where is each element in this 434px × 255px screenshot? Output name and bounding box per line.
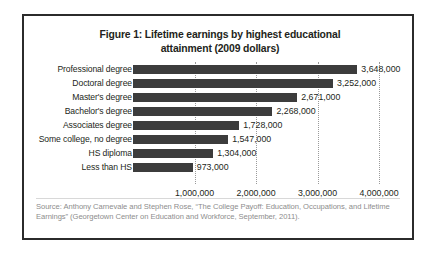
bar — [133, 121, 239, 130]
category-label: Bachelor's degree — [0, 104, 132, 118]
bar-track: 2,268,000 — [133, 107, 412, 116]
bar-row: Master's degree2,671,000 — [24, 90, 412, 104]
bar-track: 2,671,000 — [133, 93, 412, 102]
bar-track: 1,304,000 — [133, 149, 412, 158]
bar-rows: Professional degree3,648,000Doctoral deg… — [24, 62, 412, 174]
category-label: Master's degree — [0, 90, 132, 104]
bar-row: Some college, no degree1,547,000 — [24, 132, 412, 146]
bar-chart-plot-area: Professional degree3,648,000Doctoral deg… — [24, 62, 412, 192]
bar-track: 1,547,000 — [133, 135, 412, 144]
category-label: HS diploma — [0, 146, 132, 160]
figure-title-line-2: attainment (2009 dollars) — [161, 43, 280, 54]
figure-title-line-1: Figure 1: Lifetime earnings by highest e… — [100, 29, 341, 40]
bar-row: Doctoral degree3,252,000 — [24, 76, 412, 90]
category-label: Associates degree — [0, 118, 132, 132]
bar-value-label: 973,000 — [197, 160, 229, 174]
figure-title: Figure 1: Lifetime earnings by highest e… — [50, 28, 390, 56]
bar-row: Professional degree3,648,000 — [24, 62, 412, 76]
bar-track: 1,728,000 — [133, 121, 412, 130]
category-label: Professional degree — [0, 62, 132, 76]
source-note: Source: Anthony Carnevale and Stephen Ro… — [36, 202, 402, 222]
source-line-1: Source: Anthony Carnevale and Stephen Ro… — [36, 202, 361, 211]
bar-value-label: 1,547,000 — [232, 132, 271, 146]
bar-row: Less than HS973,000 — [24, 160, 412, 174]
x-axis: 1,000,0002,000,0003,000,0004,000,000 — [24, 186, 412, 202]
bar — [133, 65, 357, 74]
bar-track: 973,000 — [133, 163, 412, 172]
category-label: Some college, no degree — [0, 132, 132, 146]
bar-row: Bachelor's degree2,268,000 — [24, 104, 412, 118]
figure-frame: Figure 1: Lifetime earnings by highest e… — [22, 14, 414, 240]
bar-value-label: 1,304,000 — [217, 146, 256, 160]
bar — [133, 93, 297, 102]
bar-value-label: 3,252,000 — [337, 76, 376, 90]
category-label: Less than HS — [0, 160, 132, 174]
bar — [133, 79, 333, 88]
bar-value-label: 1,728,000 — [243, 118, 282, 132]
bar-row: Associates degree1,728,000 — [24, 118, 412, 132]
bar-track: 3,252,000 — [133, 79, 412, 88]
bar-value-label: 2,671,000 — [301, 90, 340, 104]
bar — [133, 135, 228, 144]
bar — [133, 163, 193, 172]
bar-value-label: 2,268,000 — [276, 104, 315, 118]
bar-value-label: 3,648,000 — [361, 62, 400, 76]
bar-row: HS diploma1,304,000 — [24, 146, 412, 160]
bar — [133, 107, 272, 116]
bar — [133, 149, 213, 158]
source-divider — [36, 198, 400, 199]
category-label: Doctoral degree — [0, 76, 132, 90]
bar-track: 3,648,000 — [133, 65, 412, 74]
